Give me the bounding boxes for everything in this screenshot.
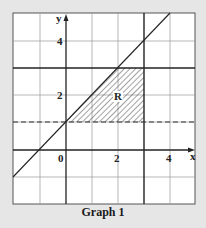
graph-plot (0, 0, 206, 228)
region-r-label: R (113, 91, 123, 102)
x-axis-label: x (190, 151, 196, 162)
y-tick-2: 2 (57, 90, 63, 101)
x-tick-0: 0 (58, 153, 64, 164)
x-tick-4: 4 (166, 153, 172, 164)
y-axis-label: y (56, 13, 62, 24)
y-tick-4: 4 (57, 36, 63, 47)
graph-caption: Graph 1 (0, 205, 206, 220)
x-tick-2: 2 (114, 153, 120, 164)
